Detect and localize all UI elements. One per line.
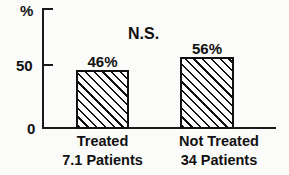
category-label-treated-name: Treated bbox=[38, 132, 167, 151]
y-axis-line bbox=[42, 8, 44, 129]
y-axis-unit-label: % bbox=[20, 3, 33, 18]
significance-annotation: N.S. bbox=[128, 26, 159, 42]
bar-treated bbox=[76, 70, 129, 129]
y-axis-tick-50 bbox=[44, 64, 53, 66]
bar-value-label-not-treated: 56% bbox=[180, 41, 234, 56]
y-axis-tick-label-0: 0 bbox=[27, 121, 35, 136]
category-label-treated-count: 7.1 Patients bbox=[38, 151, 167, 170]
category-label-not-treated: Not Treated 34 Patients bbox=[152, 132, 286, 169]
bar-value-label-treated: 46% bbox=[76, 54, 129, 69]
bar-chart-figure: % 50 0 N.S. 46% 56% Treated 7.1 Patients… bbox=[0, 0, 289, 175]
category-label-not-treated-count: 34 Patients bbox=[152, 151, 286, 170]
y-axis-tick-top bbox=[44, 8, 53, 10]
y-axis-tick-label-50: 50 bbox=[16, 58, 33, 73]
category-label-not-treated-name: Not Treated bbox=[152, 132, 286, 151]
category-label-treated: Treated 7.1 Patients bbox=[38, 132, 167, 169]
bar-not-treated bbox=[180, 57, 234, 129]
